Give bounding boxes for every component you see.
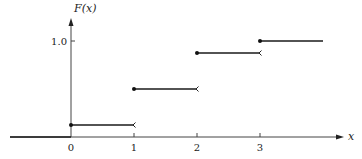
closed-point-icon — [132, 87, 136, 91]
closed-point-icon — [258, 39, 262, 43]
x-tick-label: 2 — [194, 142, 200, 153]
open-end-icon — [196, 87, 199, 92]
x-axis-label: x — [348, 130, 355, 143]
open-end-icon — [133, 123, 136, 128]
x-tick-label: 1 — [131, 142, 137, 153]
step-series — [10, 39, 323, 137]
axes: 01231.0 — [10, 18, 344, 153]
open-end-icon — [259, 51, 262, 56]
x-tick-label: 0 — [68, 142, 74, 153]
step-function-chart: 01231.0 F(x) x — [0, 0, 362, 159]
x-tick-label: 3 — [257, 142, 263, 153]
y-axis-label: F(x) — [73, 2, 96, 15]
closed-point-icon — [195, 51, 199, 55]
axis-labels: F(x) x — [73, 2, 355, 143]
y-axis-arrow-icon — [69, 18, 74, 26]
closed-point-icon — [69, 123, 73, 127]
y-tick-label: 1.0 — [51, 36, 67, 47]
x-axis-arrow-icon — [336, 135, 344, 140]
